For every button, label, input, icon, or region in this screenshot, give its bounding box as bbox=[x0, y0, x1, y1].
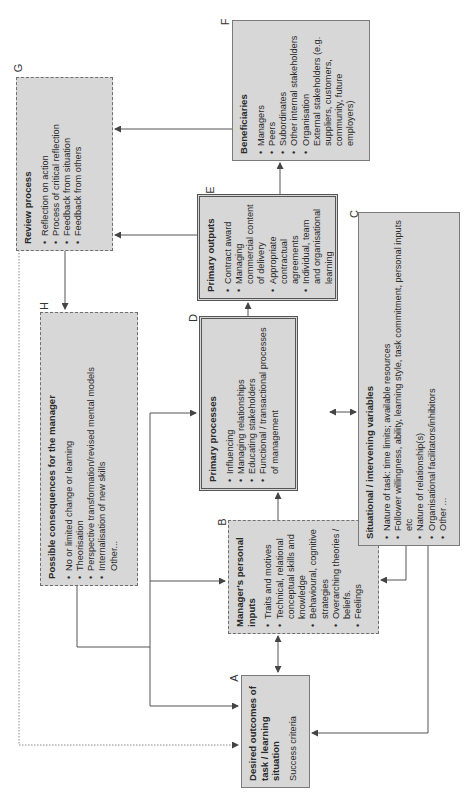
box-a-subtitle: Success criteria bbox=[288, 682, 299, 781]
label-h: H bbox=[38, 302, 50, 310]
box-e-list: Contract award Managing commercial conte… bbox=[223, 203, 335, 292]
box-b-title: Manager's personal inputs bbox=[234, 527, 257, 627]
list-item: Organisational facilitators/inhibitors bbox=[427, 219, 438, 539]
list-item: Peers bbox=[267, 27, 278, 154]
list-item: Functional / transactional processes of … bbox=[258, 325, 280, 482]
box-c-title: Situational / intervening variables bbox=[364, 219, 376, 539]
list-item: Process of critical reflection bbox=[51, 84, 62, 244]
box-d-title: Primary processes bbox=[207, 325, 219, 482]
box-b-list: Traits and motives Technical, relational… bbox=[263, 527, 364, 627]
list-item: Managers bbox=[256, 27, 267, 154]
label-g: G bbox=[12, 64, 24, 73]
box-b-personal-inputs: Manager's personal inputs Traits and mot… bbox=[228, 520, 379, 634]
box-g-review-process: Review process Reflection on action Proc… bbox=[16, 77, 113, 251]
list-item: Overarching theories / beliefs. bbox=[331, 527, 353, 627]
list-item: Appropriate contractual agreements bbox=[268, 203, 302, 292]
box-d-list: Influencing Managing relationships Educa… bbox=[225, 325, 281, 482]
list-item: Nature of task: time limits; available r… bbox=[382, 219, 393, 539]
label-c: C bbox=[348, 210, 360, 218]
box-e-title: Primary outputs bbox=[205, 203, 217, 292]
list-item: Internalisation of new skills bbox=[97, 319, 108, 579]
list-item: Feedback from others bbox=[73, 84, 84, 244]
list-item: Behavioural, cognitive strategies bbox=[308, 527, 330, 627]
box-c-list: Nature of task: time limits; available r… bbox=[382, 219, 449, 539]
list-item: Other... bbox=[109, 319, 120, 579]
label-e: E bbox=[204, 186, 216, 193]
list-item: Organisation bbox=[301, 27, 312, 154]
label-f: F bbox=[219, 19, 231, 26]
list-item: Educating stakeholders bbox=[247, 325, 258, 482]
list-item: Influencing bbox=[225, 325, 236, 482]
list-item: Subordinates bbox=[278, 27, 289, 154]
box-h-list: No or limited change or learning Theoris… bbox=[64, 319, 120, 579]
list-item: No or limited change or learning bbox=[64, 319, 75, 579]
label-a: A bbox=[228, 674, 240, 681]
box-g-list: Reflection on action Process of critical… bbox=[40, 84, 85, 244]
box-h-title: Possible consequences for the manager bbox=[46, 319, 58, 579]
list-item: Other internal stakeholders bbox=[289, 27, 300, 154]
list-item: Technical, relational conceptual skills … bbox=[275, 527, 309, 627]
box-a-desired-outcomes: Desired outcomes of task / learning situ… bbox=[241, 675, 310, 788]
box-a-title: Desired outcomes of task / learning situ… bbox=[247, 682, 282, 781]
box-g-title: Review process bbox=[22, 84, 34, 244]
box-e-primary-outputs: Primary outputs Contract award Managing … bbox=[197, 194, 338, 301]
list-item: Follower willingness, ability, learning … bbox=[393, 219, 415, 539]
list-item: Individual, team and organisational lear… bbox=[301, 203, 335, 292]
list-item: Other ... bbox=[438, 219, 449, 539]
list-item: Traits and motives bbox=[263, 527, 274, 627]
box-d-primary-processes: Primary processes Influencing Managing r… bbox=[199, 316, 298, 491]
box-c-situational-variables: Situational / intervening variables Natu… bbox=[358, 212, 460, 546]
label-d: D bbox=[187, 314, 199, 322]
list-item: Reflection on action bbox=[40, 84, 51, 244]
list-item: Managing relationships bbox=[236, 325, 247, 482]
list-item: Theorisation bbox=[75, 319, 86, 579]
list-item: Feedback from situation bbox=[62, 84, 73, 244]
list-item: External stakeholders (e.g. suppliers, c… bbox=[312, 27, 357, 154]
list-item: Contract award bbox=[223, 203, 234, 292]
label-b: B bbox=[216, 518, 228, 525]
list-item: Managing commercial content of delivery bbox=[234, 203, 268, 292]
box-h-possible-consequences: Possible consequences for the manager No… bbox=[40, 312, 138, 586]
box-f-list: Managers Peers Subordinates Other intern… bbox=[256, 27, 357, 154]
list-item: Perspective transformation/revised menta… bbox=[86, 319, 97, 579]
list-item: Nature of relationship(s) bbox=[415, 219, 426, 539]
box-f-beneficiaries: Beneficiaries Managers Peers Subordinate… bbox=[232, 20, 370, 161]
box-f-title: Beneficiaries bbox=[238, 27, 250, 154]
